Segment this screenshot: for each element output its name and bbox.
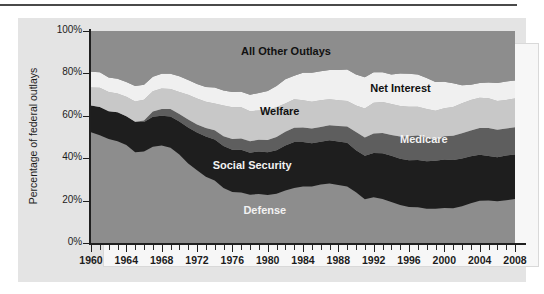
x-tick-minor (506, 245, 507, 250)
x-tick-major (409, 245, 410, 252)
x-tick-label: 1976 (221, 254, 244, 266)
x-tick-minor (321, 245, 322, 250)
y-tick-label: 60% (40, 109, 82, 120)
x-tick-major (444, 245, 445, 252)
x-tick-label: 2000 (433, 254, 456, 266)
x-tick-major (480, 245, 481, 252)
x-tick-minor (215, 245, 216, 250)
y-tick-mark (83, 158, 89, 159)
x-tick-major (126, 245, 127, 252)
x-tick-minor (188, 245, 189, 250)
x-tick-minor (171, 245, 172, 250)
x-tick-minor (144, 245, 145, 250)
x-tick-minor (241, 245, 242, 250)
y-tick-mark (83, 201, 89, 202)
y-tick-label: 20% (40, 194, 82, 205)
x-tick-minor (206, 245, 207, 250)
x-tick-label: 1964 (115, 254, 138, 266)
x-tick-minor (285, 245, 286, 250)
y-tick-label: 100% (40, 24, 82, 35)
x-tick-minor (471, 245, 472, 250)
x-tick-minor (453, 245, 454, 250)
x-tick-minor (436, 245, 437, 250)
x-tick-minor (427, 245, 428, 250)
x-tick-major (515, 245, 516, 252)
x-tick-minor (224, 245, 225, 250)
x-tick-minor (383, 245, 384, 250)
x-tick-minor (330, 245, 331, 250)
x-tick-minor (312, 245, 313, 250)
x-tick-minor (489, 245, 490, 250)
x-tick-major (374, 245, 375, 252)
x-tick-minor (135, 245, 136, 250)
plot-area (91, 31, 515, 243)
x-tick-major (268, 245, 269, 252)
x-tick-label: 1968 (150, 254, 173, 266)
y-tick-label: 40% (40, 151, 82, 162)
x-tick-label: 1972 (185, 254, 208, 266)
x-tick-minor (347, 245, 348, 250)
x-tick-minor (391, 245, 392, 250)
y-tick-label: 80% (40, 66, 82, 77)
x-tick-minor (109, 245, 110, 250)
chart-figure: 0%20%40%60%80%100% Percentage of federal… (0, 0, 544, 294)
x-tick-minor (497, 245, 498, 250)
x-tick-major (197, 245, 198, 252)
x-tick-label: 2008 (503, 254, 526, 266)
y-tick-mark (83, 31, 89, 32)
x-tick-label: 1960 (79, 254, 102, 266)
x-tick-minor (277, 245, 278, 250)
x-tick-minor (118, 245, 119, 250)
x-tick-major (162, 245, 163, 252)
x-tick-minor (259, 245, 260, 250)
x-tick-label: 1992 (362, 254, 385, 266)
x-tick-minor (179, 245, 180, 250)
x-tick-minor (462, 245, 463, 250)
y-axis-line (89, 29, 91, 245)
stacked-area-svg (91, 31, 515, 243)
x-tick-minor (100, 245, 101, 250)
x-tick-minor (294, 245, 295, 250)
x-tick-minor (153, 245, 154, 250)
x-tick-minor (356, 245, 357, 250)
x-tick-major (232, 245, 233, 252)
y-axis-ticks: 0%20%40%60%80%100% (34, 0, 82, 294)
y-axis-title: Percentage of federal outlays (27, 41, 39, 231)
x-tick-label: 1984 (291, 254, 314, 266)
x-tick-minor (400, 245, 401, 250)
x-tick-minor (365, 245, 366, 250)
y-tick-label: 0% (40, 236, 82, 247)
y-tick-mark (83, 73, 89, 74)
x-tick-label: 2004 (468, 254, 491, 266)
x-tick-major (91, 245, 92, 252)
x-tick-label: 1988 (327, 254, 350, 266)
x-tick-label: 1980 (256, 254, 279, 266)
x-tick-label: 1996 (397, 254, 420, 266)
y-tick-mark (83, 116, 89, 117)
x-tick-major (303, 245, 304, 252)
x-tick-minor (250, 245, 251, 250)
y-tick-mark (83, 243, 89, 244)
x-axis-line (89, 243, 526, 245)
x-tick-major (338, 245, 339, 252)
x-tick-minor (418, 245, 419, 250)
